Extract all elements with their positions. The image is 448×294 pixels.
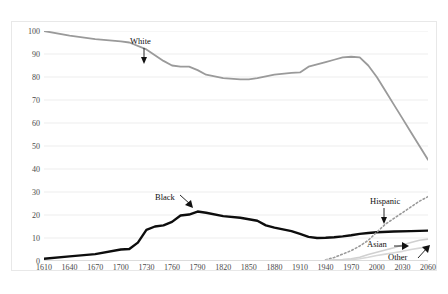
x-tick-label: 1760 bbox=[164, 263, 180, 272]
y-tick-label: 20 bbox=[6, 211, 40, 220]
y-tick-label: 0 bbox=[6, 257, 40, 266]
x-tick-label: 1640 bbox=[62, 263, 78, 272]
y-tick-label: 10 bbox=[6, 234, 40, 243]
y-tick-label: 60 bbox=[6, 119, 40, 128]
annotation-label-black: Black bbox=[155, 192, 175, 202]
x-tick-label: 1700 bbox=[113, 263, 129, 272]
x-tick-label: 1910 bbox=[292, 263, 308, 272]
y-axis-tick-labels: 0102030405060708090100 bbox=[4, 31, 40, 261]
x-tick-label: 1880 bbox=[266, 263, 282, 272]
series-line-black bbox=[44, 212, 428, 259]
y-tick-label: 90 bbox=[6, 50, 40, 59]
chart-canvas bbox=[44, 31, 428, 261]
x-tick-label: 2030 bbox=[394, 263, 410, 272]
annotation-label-white: White bbox=[130, 36, 151, 46]
series-line-white bbox=[44, 31, 428, 160]
x-tick-label: 1940 bbox=[318, 263, 334, 272]
x-tick-label: 1970 bbox=[343, 263, 359, 272]
y-tick-label: 100 bbox=[6, 27, 40, 36]
y-tick-label: 40 bbox=[6, 165, 40, 174]
chart-figure: Percent of U.S. Population 0102030405060… bbox=[0, 0, 448, 294]
x-tick-label: 1790 bbox=[190, 263, 206, 272]
annotation-label-hispanic: Hispanic bbox=[370, 196, 400, 206]
x-tick-label: 1730 bbox=[138, 263, 154, 272]
y-tick-label: 50 bbox=[6, 142, 40, 151]
x-tick-label: 1610 bbox=[36, 263, 52, 272]
x-tick-label: 1820 bbox=[215, 263, 231, 272]
y-tick-label: 70 bbox=[6, 96, 40, 105]
annotation-label-asian: Asian bbox=[367, 239, 387, 249]
annotation-arrow-black bbox=[179, 194, 205, 216]
x-axis-tick-labels: 1610164016701700173017601790182018501880… bbox=[44, 263, 428, 277]
annotation-label-other: Other bbox=[388, 252, 407, 262]
x-tick-label: 2060 bbox=[420, 263, 436, 272]
plot-area bbox=[44, 31, 428, 261]
annotation-arrow-white bbox=[138, 46, 164, 68]
y-tick-label: 30 bbox=[6, 188, 40, 197]
x-tick-label: 2000 bbox=[369, 263, 385, 272]
annotation-arrow-hispanic bbox=[378, 206, 404, 228]
x-tick-label: 1670 bbox=[87, 263, 103, 272]
annotation-arrow-other bbox=[416, 242, 442, 264]
y-tick-label: 80 bbox=[6, 73, 40, 82]
x-tick-label: 1850 bbox=[241, 263, 257, 272]
